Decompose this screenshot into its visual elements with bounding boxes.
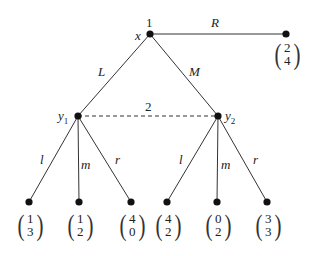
action-y2-l-label: l [179, 153, 183, 166]
root-node [146, 30, 153, 37]
decision-node-y1 [74, 112, 81, 119]
terminal-node-M-r [263, 198, 270, 205]
action-L-label: L [98, 65, 105, 78]
node-y1-label: y1 [58, 109, 68, 126]
edge-y1-m [78, 116, 79, 202]
payoff-M-l: ( 42 ) [154, 210, 183, 240]
payoff-M-r: ( 33 ) [254, 210, 283, 240]
edge-L [78, 34, 150, 116]
terminal-node-M-l [163, 198, 170, 205]
payoff-R: ( 24 ) [273, 39, 302, 69]
action-y1-m-label: m [81, 158, 90, 171]
terminal-node-R [282, 30, 289, 37]
action-y1-r-label: r [115, 153, 120, 166]
payoff-L-m: ( 12 ) [66, 210, 95, 240]
terminal-node-M-m [213, 198, 220, 205]
player-2-label: 2 [145, 100, 152, 113]
player-1-label: 1 [146, 16, 153, 29]
node-y2-label: y2 [225, 109, 235, 126]
payoff-L-r: ( 40 ) [118, 210, 147, 240]
terminal-node-L-m [75, 198, 82, 205]
action-M-label: M [189, 65, 200, 78]
action-R-label: R [211, 16, 219, 29]
root-node-label: x [135, 29, 141, 42]
action-y2-r-label: r [253, 153, 258, 166]
edge-y2-l [167, 116, 218, 202]
decision-node-y2 [214, 112, 221, 119]
action-y1-l-label: l [40, 153, 44, 166]
edge-y1-l [29, 116, 78, 202]
terminal-node-L-r [127, 198, 134, 205]
payoff-M-m: ( 02 ) [204, 210, 233, 240]
edge-M [150, 34, 218, 116]
edge-y2-m [217, 116, 218, 202]
terminal-node-L-l [25, 198, 32, 205]
payoff-L-l: ( 13 ) [16, 210, 45, 240]
action-y2-m-label: m [221, 158, 230, 171]
